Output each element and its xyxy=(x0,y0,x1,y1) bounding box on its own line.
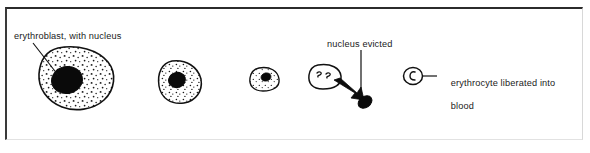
extrusion-arrow xyxy=(334,78,364,100)
cell-membrane-4 xyxy=(309,65,341,89)
stage-1-erythroblast xyxy=(39,47,114,110)
erythrocyte-membrane xyxy=(404,68,423,85)
label-erythroblast: erythroblast, with nucleus xyxy=(14,31,122,43)
stage-2-erythroblast xyxy=(159,61,202,104)
label-erythrocyte: erythrocyte liberated into blood xyxy=(440,66,555,124)
stage-3-normoblast xyxy=(250,68,279,91)
stage-4-nucleus-extrusion xyxy=(309,65,374,111)
label-erythrocyte-line1: erythrocyte liberated into xyxy=(451,78,556,88)
label-erythrocyte-line2: blood xyxy=(451,101,474,111)
erythropoiesis-figure: erythroblast, with nucleus nucleus evict… xyxy=(0,0,590,153)
label-nucleus-evicted: nucleus evicted xyxy=(327,39,393,51)
stage-5-erythrocyte xyxy=(404,68,423,85)
